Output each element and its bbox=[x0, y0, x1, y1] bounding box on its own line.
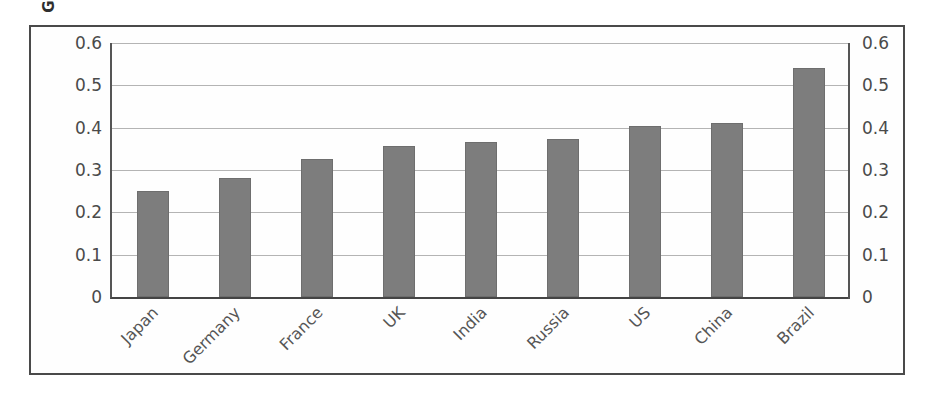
bar-slot bbox=[276, 43, 358, 297]
bar[interactable] bbox=[629, 126, 661, 297]
x-tick-label: Germany bbox=[179, 303, 244, 368]
bar-slot bbox=[358, 43, 440, 297]
y-tick-label-right: 0 bbox=[862, 289, 922, 306]
x-tick-label: US bbox=[626, 303, 655, 332]
bar-slot bbox=[440, 43, 522, 297]
y-axis-right-ticks: 0.60.50.40.30.20.10 bbox=[862, 43, 924, 297]
y-tick-label-left: 0.3 bbox=[42, 162, 102, 179]
bar-series bbox=[112, 43, 850, 297]
x-tick-label: China bbox=[691, 303, 737, 349]
y-tick-label-right: 0.4 bbox=[862, 119, 922, 136]
y-tick-label-left: 0.5 bbox=[42, 77, 102, 94]
bar[interactable] bbox=[465, 142, 497, 297]
y-tick-label-left: 0.6 bbox=[42, 35, 102, 52]
bar[interactable] bbox=[711, 123, 743, 297]
y-tick-label-right: 0.2 bbox=[862, 204, 922, 221]
y-tick-label-right: 0.5 bbox=[862, 77, 922, 94]
chart-figure: Gini coefficient 0.60.50.40.30.20.10 0.6… bbox=[0, 0, 937, 401]
x-axis-category-labels: JapanGermanyFranceUKIndiaRussiaUSChinaBr… bbox=[110, 299, 848, 379]
bar-slot bbox=[604, 43, 686, 297]
bar-slot bbox=[522, 43, 604, 297]
plot-area bbox=[110, 43, 850, 299]
y-tick-label-left: 0.1 bbox=[42, 246, 102, 263]
y-tick-label-left: 0.4 bbox=[42, 119, 102, 136]
x-tick-label: Russia bbox=[523, 303, 573, 353]
y-tick-label-right: 0.1 bbox=[862, 246, 922, 263]
x-tick-label: France bbox=[275, 303, 326, 354]
bar-slot bbox=[768, 43, 850, 297]
bar-slot bbox=[686, 43, 768, 297]
bar[interactable] bbox=[383, 146, 415, 297]
bar[interactable] bbox=[219, 178, 251, 297]
x-tick-label: Japan bbox=[117, 303, 162, 348]
y-tick-label-left: 0 bbox=[42, 289, 102, 306]
y-tick-label-right: 0.6 bbox=[862, 35, 922, 52]
x-tick-label: UK bbox=[379, 303, 408, 332]
bar[interactable] bbox=[301, 159, 333, 297]
y-tick-label-left: 0.2 bbox=[42, 204, 102, 221]
y-tick-label-right: 0.3 bbox=[862, 162, 922, 179]
x-tick-label: India bbox=[449, 303, 490, 344]
y-axis-right-spine bbox=[848, 43, 850, 299]
bar[interactable] bbox=[547, 139, 579, 297]
y-axis-left-ticks: 0.60.50.40.30.20.10 bbox=[40, 43, 102, 297]
bar-slot bbox=[112, 43, 194, 297]
x-tick-label: Brazil bbox=[773, 303, 818, 348]
bar[interactable] bbox=[137, 191, 169, 297]
bar[interactable] bbox=[793, 68, 825, 297]
bar-slot bbox=[194, 43, 276, 297]
